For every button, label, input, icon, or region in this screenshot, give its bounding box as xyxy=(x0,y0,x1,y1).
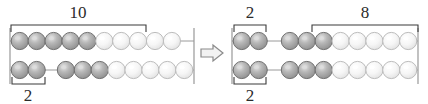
bead-highlight xyxy=(78,65,83,69)
bead-dark[interactable] xyxy=(281,32,298,49)
bead-highlight xyxy=(319,65,324,69)
bead-highlight xyxy=(15,36,20,40)
bead-light[interactable] xyxy=(142,61,159,78)
bead-highlight xyxy=(319,36,324,40)
bead-light[interactable] xyxy=(176,61,193,78)
bead-light[interactable] xyxy=(383,32,400,49)
bead-light[interactable] xyxy=(96,32,113,49)
bead-dark[interactable] xyxy=(45,32,62,49)
abacus-diagram: 102282 xyxy=(0,0,428,104)
bead-light[interactable] xyxy=(349,32,366,49)
bead-highlight xyxy=(162,65,167,69)
bead-highlight xyxy=(336,65,341,69)
bead-light[interactable] xyxy=(366,61,383,78)
bead-highlight xyxy=(403,65,408,69)
bead-highlight xyxy=(179,65,184,69)
bead-highlight xyxy=(386,65,391,69)
bead-dark[interactable] xyxy=(315,32,332,49)
bead-highlight xyxy=(302,36,307,40)
bead-highlight xyxy=(285,65,290,69)
bead-dark[interactable] xyxy=(11,32,28,49)
bead-dark[interactable] xyxy=(62,32,79,49)
bead-highlight xyxy=(61,65,66,69)
measure-bracket xyxy=(312,25,418,32)
bead-light[interactable] xyxy=(400,61,417,78)
bead-highlight xyxy=(32,36,37,40)
bead-dark[interactable] xyxy=(57,61,74,78)
bead-dark[interactable] xyxy=(91,61,108,78)
bead-dark[interactable] xyxy=(315,61,332,78)
bead-highlight xyxy=(49,36,54,40)
bead-highlight xyxy=(386,36,391,40)
bead-highlight xyxy=(336,36,341,40)
bead-highlight xyxy=(353,65,358,69)
bead-highlight xyxy=(403,36,408,40)
bead-light[interactable] xyxy=(332,61,349,78)
bead-dark[interactable] xyxy=(298,32,315,49)
bead-dark[interactable] xyxy=(28,61,45,78)
bead-highlight xyxy=(83,36,88,40)
bead-highlight xyxy=(146,65,151,69)
arrow-right-icon xyxy=(201,45,223,61)
bracket-label-10: 10 xyxy=(70,3,87,22)
bead-highlight xyxy=(167,36,172,40)
bead-light[interactable] xyxy=(349,61,366,78)
bead-highlight xyxy=(133,36,138,40)
bead-dark[interactable] xyxy=(28,32,45,49)
bead-highlight xyxy=(237,36,242,40)
bead-highlight xyxy=(112,65,117,69)
bracket-label-8: 8 xyxy=(361,3,370,22)
bracket-label-2-top: 2 xyxy=(246,3,255,22)
bead-light[interactable] xyxy=(130,32,147,49)
bead-highlight xyxy=(32,65,37,69)
bead-dark[interactable] xyxy=(250,32,267,49)
bead-highlight xyxy=(353,36,358,40)
bead-light[interactable] xyxy=(159,61,176,78)
bead-highlight xyxy=(150,36,155,40)
bead-light[interactable] xyxy=(125,61,142,78)
bracket-label-2-bottom: 2 xyxy=(246,86,255,104)
bead-dark[interactable] xyxy=(233,32,250,49)
bead-highlight xyxy=(15,65,20,69)
bead-highlight xyxy=(254,65,259,69)
bead-light[interactable] xyxy=(146,32,163,49)
bead-light[interactable] xyxy=(163,32,180,49)
bead-dark[interactable] xyxy=(233,61,250,78)
bead-highlight xyxy=(129,65,134,69)
bead-light[interactable] xyxy=(113,32,130,49)
bead-highlight xyxy=(302,65,307,69)
bead-dark[interactable] xyxy=(298,61,315,78)
diagram-canvas: 102282 xyxy=(0,0,428,104)
bracket-label-2: 2 xyxy=(24,86,33,104)
bead-highlight xyxy=(370,36,375,40)
bead-highlight xyxy=(66,36,71,40)
bead-light[interactable] xyxy=(383,61,400,78)
bead-dark[interactable] xyxy=(281,61,298,78)
bead-highlight xyxy=(370,65,375,69)
measure-bracket xyxy=(11,25,146,32)
bead-highlight xyxy=(99,36,104,40)
bead-dark[interactable] xyxy=(11,61,28,78)
bead-light[interactable] xyxy=(400,32,417,49)
bead-highlight xyxy=(237,65,242,69)
bead-light[interactable] xyxy=(366,32,383,49)
bead-light[interactable] xyxy=(108,61,125,78)
bead-highlight xyxy=(116,36,121,40)
bead-highlight xyxy=(95,65,100,69)
bead-light[interactable] xyxy=(332,32,349,49)
bead-dark[interactable] xyxy=(79,32,96,49)
bead-dark[interactable] xyxy=(74,61,91,78)
bead-highlight xyxy=(285,36,290,40)
measure-bracket xyxy=(234,25,266,32)
bead-highlight xyxy=(254,36,259,40)
transforms-into-arrow xyxy=(201,45,223,61)
bead-dark[interactable] xyxy=(250,61,267,78)
